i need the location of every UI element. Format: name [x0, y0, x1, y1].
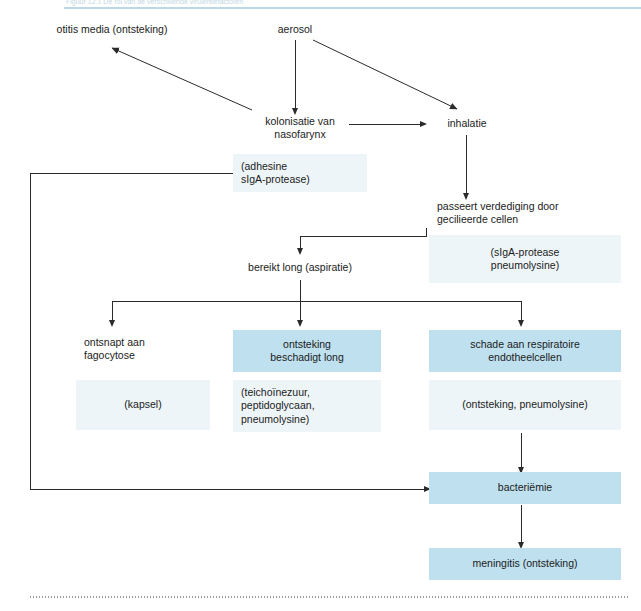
footer-dotted-rule	[30, 596, 630, 598]
node-ontsteking-pneumolysine[interactable]: (ontsteking, pneumolysine)	[429, 380, 621, 430]
node-inhalatie[interactable]: inhalatie	[432, 115, 502, 133]
edge-schade-bacteriemie	[521, 433, 522, 469]
edge-adhesine-loop-bottom	[30, 489, 426, 490]
edge-adhesine-loop-top	[30, 173, 233, 174]
node-meningitis[interactable]: meningitis (ontsteking)	[429, 548, 621, 580]
node-adhesine-siga-protease[interactable]: (adhesine sIgA-protease)	[233, 154, 367, 192]
node-ontsteking-beschadigt-long[interactable]: ontsteking beschadigt long	[233, 330, 381, 372]
node-schade-endotheelcellen[interactable]: schade aan respiratoire endotheelcellen	[429, 330, 621, 372]
node-bereikt-long-aspiratie[interactable]: bereikt long (aspiratie)	[222, 259, 378, 277]
edge-passeert-bereikt-stub	[426, 228, 427, 237]
edge-aerosol-kolonisatie	[295, 40, 296, 110]
arrow-branch-ontsteking	[297, 320, 303, 327]
arrow-branch-ontsnapt	[109, 320, 115, 327]
node-kolonisatie-nasofarynx[interactable]: kolonisatie van nasofarynx	[235, 114, 365, 142]
header-rule	[64, 7, 641, 9]
edge-bacteriemie-meningitis	[521, 505, 522, 544]
node-passeert-verdediging[interactable]: passeert verdediging door gecilieerde ce…	[429, 198, 619, 228]
edge-branch-schade	[521, 301, 522, 322]
edge-branch-ontsteking	[300, 301, 301, 322]
figure-caption: Figuur 12.1 De rol van de verschillende …	[66, 0, 376, 6]
node-kapsel[interactable]: (kapsel)	[76, 380, 210, 430]
node-aerosol[interactable]: aerosol	[255, 21, 335, 39]
arrow-passeert-bereikt	[297, 248, 303, 255]
edge-branch-bus	[112, 301, 522, 302]
edge-inhalatie-passeert	[466, 135, 467, 195]
node-ontsnapt-fagocytose[interactable]: ontsnapt aan fagocytose	[76, 334, 206, 364]
edge-bereikt-bus-v	[300, 280, 301, 301]
node-teichoinezuur[interactable]: (teichoïnezuur, peptidoglycaan, pneumoly…	[233, 380, 381, 432]
diagram-canvas: Figuur 12.1 De rol van de verschillende …	[0, 0, 641, 611]
edge-passeert-bereikt-h	[300, 236, 427, 237]
edge-adhesine-loop-left	[30, 173, 31, 490]
node-otitis-media[interactable]: otitis media (ontsteking)	[22, 21, 202, 39]
arrow-branch-schade	[518, 320, 524, 327]
diagonal-connectors	[0, 0, 641, 611]
node-siga-protease-pneumolysine[interactable]: (sIgA-protease pneumolysine)	[429, 235, 621, 283]
node-bacteriemie[interactable]: bacteriëmie	[429, 472, 621, 504]
arrow-kolonisatie-inhalatie	[420, 121, 427, 127]
edge-branch-ontsnapt	[112, 301, 113, 322]
